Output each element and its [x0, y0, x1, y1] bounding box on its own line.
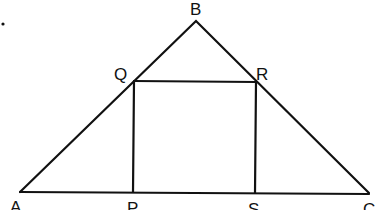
geometry-diagram: B Q R A P S C [0, 0, 375, 210]
square-top-qr [134, 81, 256, 82]
label-r: R [256, 65, 268, 84]
square-right-rs [255, 82, 256, 193]
label-c: C [363, 200, 375, 210]
label-p: P [127, 199, 138, 210]
triangle-sides-ab-bc [20, 21, 369, 193]
label-s: S [248, 200, 259, 210]
diagram-svg: B Q R A P S C [0, 0, 375, 210]
label-q: Q [114, 65, 127, 84]
stray-dot [1, 22, 4, 25]
base-ac [20, 192, 369, 194]
label-b: B [190, 0, 201, 19]
square-left-qp [133, 81, 134, 192]
label-a: A [10, 198, 22, 210]
